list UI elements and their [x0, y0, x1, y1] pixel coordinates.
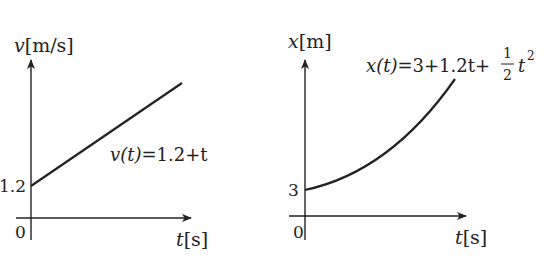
velocity-line — [31, 83, 182, 186]
x-equation-tail: t — [518, 55, 526, 76]
x-equation-lhs: x(t) — [366, 55, 397, 76]
position-curve — [305, 79, 455, 190]
v-intercept-label: 1.2 — [0, 176, 26, 196]
position-graph: x[m] 3 0 x(t)=3+1.2t+ 1 2 t 2 t[s] — [288, 30, 535, 248]
svg-text:x(t)=3+1.2t+: x(t)=3+1.2t+ — [366, 55, 490, 76]
svg-text:t[s]: t[s] — [455, 226, 487, 248]
v-axis-unit: [m/s] — [25, 34, 74, 56]
svg-text:x[m]: x[m] — [288, 30, 332, 52]
v-axis-var: v — [14, 34, 25, 56]
svg-text:v(t)=1.2+t: v(t)=1.2+t — [110, 144, 208, 165]
velocity-graph: v[m/s] 1.2 0 v(t)=1.2+t t[s] — [0, 34, 208, 250]
x-equation-rhs: =3+1.2t+ — [397, 55, 490, 76]
fraction-denominator: 2 — [503, 67, 512, 83]
v-equation-rhs: =1.2+t — [141, 144, 208, 165]
kinematics-diagram: v[m/s] 1.2 0 v(t)=1.2+t t[s] x[m] 3 0 x(… — [0, 0, 548, 261]
x-axis-var: x — [288, 30, 299, 52]
t-axis-unit-right: [s] — [463, 226, 488, 248]
x-origin-label: 0 — [293, 222, 304, 242]
svg-text:v[m/s]: v[m/s] — [14, 34, 74, 56]
svg-text:t[s]: t[s] — [176, 228, 208, 250]
v-origin-label: 0 — [15, 222, 26, 242]
v-equation-lhs: v(t) — [110, 144, 141, 165]
x-intercept-label: 3 — [288, 180, 299, 200]
t-axis-unit-left: [s] — [184, 228, 209, 250]
fraction-numerator: 1 — [503, 45, 512, 61]
exponent: 2 — [527, 49, 535, 63]
x-axis-unit: [m] — [299, 30, 332, 52]
